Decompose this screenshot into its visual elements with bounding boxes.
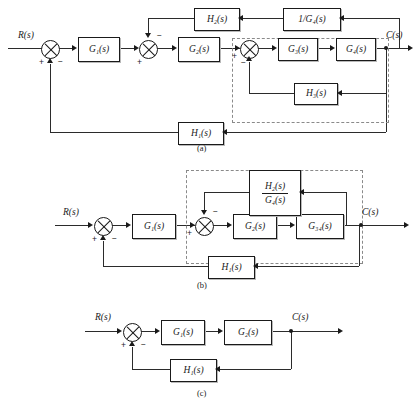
block-h2-a: H₂(s) bbox=[194, 8, 240, 31]
summer-outer-b-minus: − bbox=[112, 234, 117, 243]
summer-h2-a-minus: − bbox=[157, 31, 162, 40]
summer-h3-a-minus: − bbox=[241, 58, 246, 67]
diagram-b-input-label: R(s) bbox=[63, 208, 79, 218]
arrow-into-g2-a bbox=[172, 45, 177, 51]
wire-input-b bbox=[55, 225, 90, 226]
wire-h1-in-a bbox=[223, 132, 386, 133]
arrow-h1-into-summer1 bbox=[47, 58, 53, 63]
diagram-c: R(s) + − G₁(s) G₂(s) C(s) H₁(s) (c) bbox=[0, 300, 417, 405]
wire-invg4-h2 bbox=[239, 18, 283, 19]
arrow-into-summer1-b bbox=[88, 222, 93, 228]
arrow-h1-into-summer1-b bbox=[100, 235, 106, 240]
arrow-output-a bbox=[408, 45, 413, 51]
takeoff-node-output-b bbox=[359, 223, 363, 227]
block-g4-a-label: G₄(s) bbox=[346, 45, 366, 55]
block-h2-over-g4-denominator: G₄(s) bbox=[262, 193, 288, 206]
summer-inner-b bbox=[195, 217, 214, 236]
diagram-a-caption: (a) bbox=[197, 143, 206, 153]
summer-outer-b-plus: + bbox=[92, 235, 97, 244]
block-g2-c: G₂(s) bbox=[224, 320, 272, 345]
diagram-b-output-label: C(s) bbox=[362, 208, 378, 218]
block-g1-c-label: G₁(s) bbox=[173, 328, 193, 338]
diagram-b: R(s) + − G₁(s) + − G₂(s) G₃₄(s) C(s) H₂(… bbox=[0, 158, 417, 288]
summer-outer-a-minus: − bbox=[58, 57, 63, 66]
wire-input bbox=[8, 48, 44, 49]
block-h3-a: H₃(s) bbox=[294, 83, 338, 105]
diagram-c-caption: (c) bbox=[197, 388, 206, 398]
arrow-into-frac bbox=[299, 189, 304, 195]
block-g1-b: G₁(s) bbox=[132, 214, 176, 239]
arrow-output-c bbox=[338, 328, 343, 334]
summer-h3-a-plus: + bbox=[232, 52, 237, 61]
diagram-a-input-label: R(s) bbox=[18, 31, 34, 41]
wire-h1-out-b bbox=[103, 266, 208, 267]
block-g34-b: G₃₄(s) bbox=[296, 214, 344, 239]
arrow-h3-into-summer bbox=[246, 56, 252, 61]
block-g1-c: G₁(s) bbox=[161, 320, 205, 345]
arrow-into-summer-c bbox=[117, 328, 122, 334]
arrow-into-h1-a bbox=[222, 129, 227, 135]
wire-into-invg4 bbox=[340, 18, 399, 19]
block-g4-a: G₄(s) bbox=[336, 38, 376, 61]
block-inv-g4-a-label: 1/G₄(s) bbox=[298, 15, 326, 25]
arrow-output-b bbox=[404, 222, 409, 228]
block-h3-a-label: H₃(s) bbox=[306, 89, 326, 99]
summer-outer-a-plus: + bbox=[39, 58, 44, 67]
arrow-into-g1-a bbox=[72, 45, 77, 51]
wire-h2-down-to-summer2 bbox=[148, 18, 149, 34]
block-h2-a-label: H₂(s) bbox=[207, 15, 227, 25]
summer-inner-b-minus: − bbox=[213, 207, 218, 216]
block-h1-a: H₁(s) bbox=[178, 122, 224, 145]
arrow-into-h2-a bbox=[238, 15, 243, 21]
wire-input-c bbox=[85, 331, 119, 332]
wire-h1-up-to-summer1-b bbox=[103, 241, 104, 266]
wire-h1-in-c bbox=[216, 369, 291, 370]
arrow-into-g4 bbox=[330, 45, 335, 51]
wire-h1-in-b bbox=[254, 266, 359, 267]
diagram-a-output-label: C(s) bbox=[386, 31, 402, 41]
arrow-into-g34 bbox=[290, 222, 295, 228]
block-h1-b-label: H₁(s) bbox=[221, 263, 241, 273]
arrow-frac-into-summer bbox=[201, 210, 207, 215]
arrow-into-g1-c bbox=[155, 328, 160, 334]
block-g1-a: G₁(s) bbox=[78, 37, 120, 62]
block-h2-over-g4: H₂(s) G₄(s) bbox=[249, 170, 301, 216]
summer-input-c-minus: − bbox=[141, 340, 146, 349]
arrow-into-invg4 bbox=[339, 15, 344, 21]
wire-h2-left bbox=[148, 18, 194, 19]
summer-h2-a-plus: + bbox=[137, 58, 142, 67]
summer-input-c-plus: + bbox=[121, 341, 126, 350]
arrow-into-g2-b bbox=[227, 222, 232, 228]
block-g2-b-label: G₂(s) bbox=[245, 222, 265, 232]
block-g3-a: G₃(s) bbox=[278, 38, 318, 61]
wire-g2-output-c bbox=[270, 331, 340, 332]
arrow-into-h3 bbox=[337, 90, 342, 96]
arrow-h2-into-summer2 bbox=[145, 33, 151, 38]
block-h1-b: H₁(s) bbox=[208, 256, 255, 279]
wire-h1-takeoff-down-c bbox=[291, 331, 292, 369]
arrow-h1-into-summer-c bbox=[129, 341, 135, 346]
block-g1-a-label: G₁(s) bbox=[89, 45, 109, 55]
arrow-into-h1-b bbox=[253, 263, 258, 269]
block-g3-a-label: G₃(s) bbox=[288, 45, 308, 55]
diagram-c-output-label: C(s) bbox=[292, 313, 308, 323]
block-h1-c: H₁(s) bbox=[170, 359, 217, 382]
diagram-c-input-label: R(s) bbox=[95, 313, 111, 323]
arrow-into-g1-b bbox=[126, 222, 131, 228]
block-g2-a-label: G₂(s) bbox=[189, 45, 209, 55]
wire-h1-out-a bbox=[50, 132, 178, 133]
block-h1-c-label: H₁(s) bbox=[183, 366, 203, 376]
block-inv-g4-a: 1/G₄(s) bbox=[283, 8, 341, 31]
takeoff-node-output-a bbox=[384, 46, 388, 50]
wire-h1-up-to-summer1 bbox=[50, 64, 51, 132]
arrow-into-h1-c bbox=[215, 366, 220, 372]
block-g34-b-label: G₃₄(s) bbox=[308, 222, 332, 232]
wire-h1-up-to-summer-c bbox=[132, 347, 133, 369]
takeoff-node-output-c bbox=[289, 329, 293, 333]
block-g2-b: G₂(s) bbox=[233, 214, 277, 239]
diagram-b-caption: (b) bbox=[197, 280, 207, 290]
block-g1-b-label: G₁(s) bbox=[144, 222, 164, 232]
summer-inner-b-plus: + bbox=[187, 229, 192, 238]
wire-h1-out-c bbox=[132, 369, 170, 370]
block-h2-over-g4-numerator: H₂(s) bbox=[262, 181, 288, 193]
